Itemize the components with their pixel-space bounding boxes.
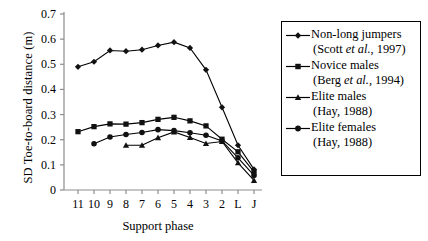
data-point-circle — [123, 132, 129, 138]
data-point-square — [107, 121, 112, 126]
y-tick-label: 0.4 — [30, 83, 56, 95]
data-point-square — [187, 118, 192, 123]
y-tick-label: 0 — [30, 184, 56, 196]
series-line — [78, 42, 254, 169]
data-point-diamond — [235, 142, 241, 148]
data-point-diamond — [295, 32, 301, 38]
data-point-circle — [251, 173, 257, 179]
legend-label: Novice males(Berg et al., 1994) — [311, 58, 404, 87]
legend-label-main: Elite females — [311, 120, 376, 134]
legend-label: Elite males(Hay, 1988) — [311, 89, 372, 118]
data-point-circle — [203, 132, 209, 138]
data-point-square — [91, 124, 96, 129]
data-point-square — [203, 123, 208, 128]
y-tick-label: 0.3 — [30, 109, 56, 121]
data-point-diamond — [219, 104, 225, 110]
legend-label-citation: (Berg et al., 1994) — [311, 73, 404, 88]
legend-label-main: Novice males — [311, 58, 379, 72]
data-point-square — [75, 129, 80, 134]
series-4 — [91, 127, 257, 178]
y-tick-label: 0.7 — [30, 8, 56, 20]
x-tick-label: J — [245, 198, 263, 210]
data-point-diamond — [139, 47, 145, 53]
data-point-circle — [295, 126, 301, 132]
legend-label-main: Non-long jumpers — [311, 27, 402, 41]
data-point-circle — [91, 141, 97, 147]
legend-label-citation: (Hay, 1988) — [311, 104, 372, 119]
legend-marker-square-icon — [285, 59, 311, 74]
data-point-circle — [107, 134, 113, 140]
data-point-square — [139, 120, 144, 125]
data-point-diamond — [155, 42, 161, 48]
data-point-circle — [139, 130, 145, 136]
chart-legend: Non-long jumpers(Scott et al., 1997)Novi… — [281, 21, 421, 176]
data-point-circle — [171, 128, 177, 134]
data-point-diamond — [123, 48, 129, 54]
x-axis-label: Support phase — [58, 219, 258, 234]
data-point-diamond — [171, 39, 177, 45]
figure-root: SD Toe-to-board distance (m) Support pha… — [0, 0, 428, 241]
legend-label-main: Elite males — [311, 89, 366, 103]
legend-item-2: Novice males(Berg et al., 1994) — [285, 58, 417, 87]
legend-label-citation: (Hay, 1988) — [311, 135, 376, 150]
series-line — [78, 117, 254, 172]
data-point-circle — [155, 127, 161, 133]
y-tick-label: 0.5 — [30, 58, 56, 70]
data-point-circle — [219, 138, 225, 144]
data-point-square — [123, 121, 128, 126]
legend-item-3: Elite males(Hay, 1988) — [285, 89, 417, 118]
legend-item-4: Elite females(Hay, 1988) — [285, 120, 417, 149]
chart-area: SD Toe-to-board distance (m) Support pha… — [0, 0, 272, 241]
data-point-diamond — [75, 64, 81, 70]
legend-marker-circle-icon — [285, 121, 311, 136]
data-point-circle — [235, 155, 241, 161]
data-point-square — [171, 115, 176, 120]
legend-marker-diamond-icon — [285, 28, 311, 43]
data-point-square — [295, 64, 300, 69]
data-point-square — [235, 149, 240, 154]
y-tick-label: 0.1 — [30, 159, 56, 171]
data-point-circle — [187, 130, 193, 136]
legend-item-1: Non-long jumpers(Scott et al., 1997) — [285, 27, 417, 56]
legend-marker-triangle-icon — [285, 90, 311, 105]
data-point-square — [155, 117, 160, 122]
legend-label: Elite females(Hay, 1988) — [311, 120, 376, 149]
y-tick-label: 0.6 — [30, 33, 56, 45]
legend-label: Non-long jumpers(Scott et al., 1997) — [311, 27, 406, 56]
legend-label-citation: (Scott et al., 1997) — [311, 42, 406, 57]
y-tick-label: 0.2 — [30, 134, 56, 146]
